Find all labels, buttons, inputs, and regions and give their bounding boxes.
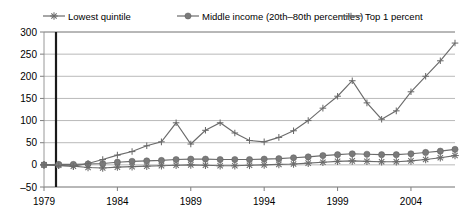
x-axis-label: 1979: [33, 196, 56, 207]
series-marker-circle: [158, 157, 164, 163]
series-marker-circle: [114, 159, 120, 165]
y-axis-label: 200: [20, 71, 37, 82]
series-marker-circle: [276, 156, 282, 162]
series-marker-circle: [320, 152, 326, 158]
series-marker-circle: [217, 156, 223, 162]
chart-container: Lowest quintileMiddle income (20th–80th …: [0, 0, 470, 216]
series-marker-circle: [379, 152, 385, 158]
x-axis-label: 1994: [253, 196, 276, 207]
y-axis-label: 300: [20, 27, 37, 38]
y-axis-label: 0: [31, 159, 37, 170]
series-marker-circle: [423, 149, 429, 155]
x-axis-label: 1984: [106, 196, 129, 207]
series-marker-circle: [393, 152, 399, 158]
series-marker-circle: [408, 151, 414, 157]
series-marker-circle: [334, 152, 340, 158]
series-marker-circle: [290, 155, 296, 161]
legend-item-label: Lowest quintile: [68, 11, 131, 22]
series-marker-circle: [437, 148, 443, 154]
y-axis-label: –50: [20, 182, 37, 193]
legend-item-2: Middle income (20th–80th percentiles): [177, 11, 363, 22]
series-marker-circle: [185, 13, 191, 19]
series-marker-circle: [202, 156, 208, 162]
series-marker-circle: [144, 158, 150, 164]
series-marker-circle: [452, 146, 458, 152]
chart-legend: Lowest quintileMiddle income (20th–80th …: [43, 11, 423, 22]
x-axis-label: 1999: [326, 196, 349, 207]
legend-item-label: Middle income (20th–80th percentiles): [202, 11, 363, 22]
series-marker-circle: [364, 151, 370, 157]
x-axis-label: 2004: [400, 196, 423, 207]
series-marker-circle: [173, 156, 179, 162]
series-marker-circle: [188, 156, 194, 162]
x-axis-label: 1989: [180, 196, 203, 207]
series-marker-circle: [246, 156, 252, 162]
series-marker-circle: [261, 156, 267, 162]
series-marker-circle: [305, 154, 311, 160]
legend-item-label: Top 1 percent: [365, 11, 423, 22]
series-marker-circle: [349, 151, 355, 157]
series-marker-circle: [129, 158, 135, 164]
y-axis-label: 150: [20, 93, 37, 104]
series-marker-circle: [232, 156, 238, 162]
y-axis-label: 50: [26, 137, 38, 148]
income-growth-line-chart: Lowest quintileMiddle income (20th–80th …: [0, 0, 470, 216]
y-axis-label: 100: [20, 115, 37, 126]
y-axis-label: 250: [20, 49, 37, 60]
